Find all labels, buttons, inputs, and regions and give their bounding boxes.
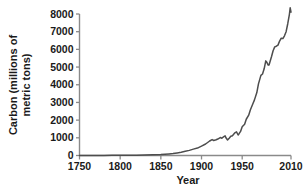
x-tick-label-1950: 1950 <box>231 160 255 172</box>
y-tick-label-4000: 4000 <box>50 78 74 90</box>
y-axis-tick-labels: 010002000300040005000600070008000 <box>50 8 74 162</box>
y-tick-label-1000: 1000 <box>50 131 74 143</box>
x-tick-label-2010: 2010 <box>279 160 303 172</box>
y-tick-label-2000: 2000 <box>50 114 74 126</box>
x-tick-label-1750: 1750 <box>68 160 92 172</box>
emissions-line-series <box>80 8 292 156</box>
x-axis-title: Year <box>176 174 200 186</box>
y-tick-label-6000: 6000 <box>50 43 74 55</box>
y-tick-label-5000: 5000 <box>50 61 74 73</box>
y-tick-label-8000: 8000 <box>50 8 74 20</box>
x-tick-label-1800: 1800 <box>108 160 132 172</box>
x-tick-label-1850: 1850 <box>149 160 173 172</box>
y-tick-label-7000: 7000 <box>50 25 74 37</box>
chart-canvas: 010002000300040005000600070008000 175018… <box>0 0 303 194</box>
x-tick-label-1900: 1900 <box>190 160 214 172</box>
y-tick-label-3000: 3000 <box>50 96 74 108</box>
y-axis-title-line2: metric tons) <box>20 53 32 116</box>
x-axis-tick-labels: 175018001850190019502010 <box>68 160 303 172</box>
y-axis-title-line1: Carbon (millions of <box>7 35 19 136</box>
y-axis-title: Carbon (millions of metric tons) <box>7 35 32 136</box>
carbon-emissions-chart: 010002000300040005000600070008000 175018… <box>0 0 303 194</box>
